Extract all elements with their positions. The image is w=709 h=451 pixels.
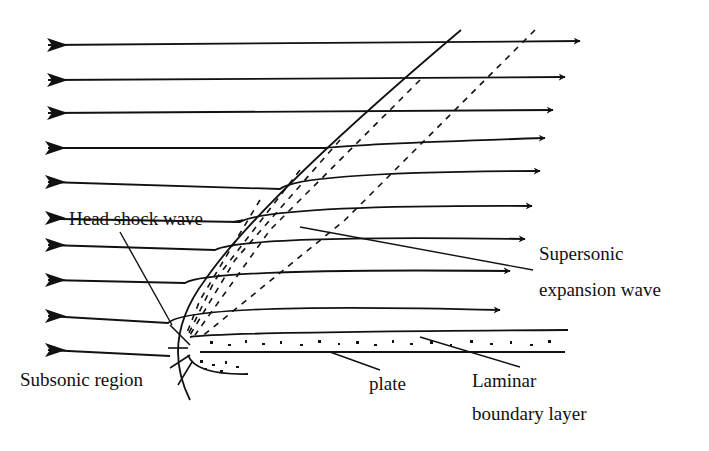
expansion-fan (186, 30, 535, 338)
label-boundary-layer: boundary layer (472, 403, 586, 425)
label-laminar: Laminar (472, 370, 536, 392)
streamlines (48, 41, 580, 356)
head-shock-wave (178, 30, 461, 400)
flow-diagram: Head shock wave Supersonic expansion wav… (0, 0, 709, 451)
label-head-shock-wave: Head shock wave (69, 208, 203, 230)
label-expansion-wave: expansion wave (539, 279, 661, 301)
boundary-layer-dots (200, 340, 551, 372)
label-plate: plate (369, 373, 406, 395)
label-supersonic: Supersonic (539, 243, 623, 265)
label-subsonic-region: Subsonic region (20, 369, 143, 391)
plate (188, 330, 568, 374)
inlet-arrowheads (45, 38, 68, 357)
